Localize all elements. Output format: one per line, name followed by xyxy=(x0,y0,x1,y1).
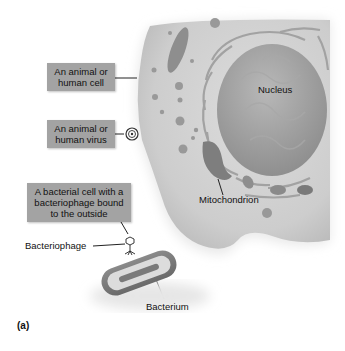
label-bacteriophage: Bacteriophage xyxy=(25,240,86,251)
animal-virus xyxy=(126,128,138,140)
label-mitochondrion: Mitochondrion xyxy=(199,194,259,205)
panel-label: (a) xyxy=(17,320,29,331)
nucleus xyxy=(217,44,327,176)
callout-bacterial-cell: A bacterial cell with a bacteriophage bo… xyxy=(27,183,131,222)
callout-animal-virus: An animal or human virus xyxy=(47,120,115,148)
cell-diagram-art xyxy=(0,0,345,351)
bacteriophage xyxy=(125,237,135,255)
callout-animal-cell: An animal or human cell xyxy=(47,63,115,91)
label-nucleus: Nucleus xyxy=(258,84,292,95)
label-bacterium: Bacterium xyxy=(146,301,189,312)
